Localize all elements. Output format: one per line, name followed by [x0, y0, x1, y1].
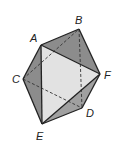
vertex-label-a: A [29, 32, 37, 44]
vertex-label-f: F [104, 69, 112, 81]
vertex-label-b: B [75, 14, 82, 26]
vertex-label-e: E [36, 130, 44, 142]
octahedron-diagram: A B C D E F [0, 0, 119, 145]
vertex-label-d: D [86, 107, 94, 119]
vertex-label-c: C [12, 73, 20, 85]
